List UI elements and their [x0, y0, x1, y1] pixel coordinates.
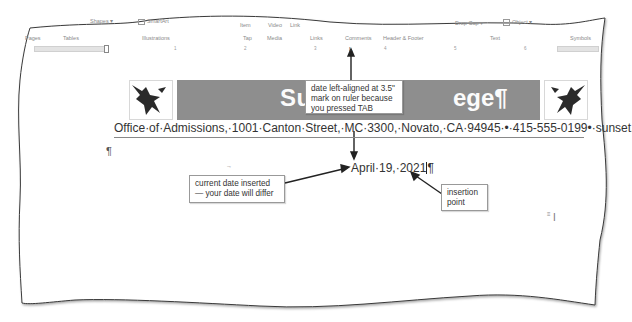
group-tap: Tap	[243, 35, 252, 41]
ruler-mark-6: 6	[524, 46, 527, 51]
ruler-mark-4: 4	[384, 46, 387, 51]
current-date: April·19,·2021	[351, 161, 426, 175]
eagle-icon	[130, 81, 172, 119]
group-header-footer: Header & Footer	[383, 35, 424, 41]
click-and-type-marker: ≡	[547, 211, 551, 217]
callout-tab-alignment: date left-aligned at 3.5" mark on ruler …	[305, 80, 403, 114]
ribbon-object-button[interactable]: Object ▾	[503, 19, 532, 26]
group-tables: Tables	[63, 35, 79, 41]
ribbon-item-button[interactable]: Item	[240, 22, 251, 28]
empty-paragraph-mark: ¶	[106, 145, 112, 157]
smartart-label: SmartArt	[147, 18, 169, 24]
address-bottom-border	[114, 137, 584, 138]
ruler-mark-2: 2	[244, 46, 247, 51]
group-links: Links	[310, 35, 323, 41]
object-icon	[503, 19, 510, 26]
date-line[interactable]: April·19,·2021¶	[351, 161, 434, 175]
eagle-logo-left[interactable]	[129, 80, 173, 120]
left-indent-marker[interactable]	[104, 45, 109, 53]
smartart-icon	[138, 19, 145, 25]
group-illustrations: Illustrations	[142, 35, 170, 41]
ribbon-link-button[interactable]: Link	[290, 22, 300, 28]
ribbon-video-button[interactable]: Video	[268, 22, 282, 28]
ribbon-shapes-button[interactable]: Shapes ▾	[90, 18, 113, 24]
eagle-icon	[545, 81, 587, 119]
college-name-right: ege¶	[453, 84, 508, 112]
left-tab-stop[interactable]: L	[349, 46, 352, 52]
horizontal-ruler[interactable]: 1 2 3 4 5 6 L	[34, 45, 599, 51]
ibeam-cursor-icon: I	[553, 212, 556, 223]
ruler-right-margin	[557, 46, 599, 52]
group-symbols: Symbols	[570, 35, 591, 41]
group-media: Media	[267, 35, 282, 41]
callout-insertion-point: insertion point	[441, 184, 488, 211]
callout-current-date: current date inserted — your date will d…	[189, 175, 285, 203]
ruler-left-margin	[34, 46, 106, 52]
ribbon-dropcap-button[interactable]: Drop Cap ▾	[455, 20, 483, 26]
eagle-logo-right[interactable]	[544, 80, 588, 120]
object-label: Object ▾	[512, 19, 532, 25]
date-paragraph-mark: ¶	[427, 161, 433, 175]
ribbon-smartart-button[interactable]: SmartArt	[138, 18, 169, 25]
group-pages: Pages	[25, 35, 41, 41]
group-text: Text	[490, 35, 500, 41]
ruler-mark-5: 5	[454, 46, 457, 51]
ruler-mark-1: 1	[174, 46, 177, 51]
group-comments: Comments	[345, 35, 372, 41]
tab-character-arrow: →	[226, 163, 232, 169]
ruler-mark-3: 3	[314, 46, 317, 51]
address-line[interactable]: Office·of·Admissions,·1001·Canton·Street…	[114, 121, 584, 135]
